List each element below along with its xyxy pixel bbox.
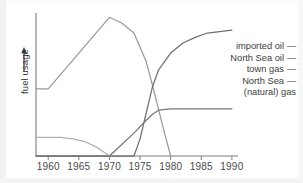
legend-item-north-sea-oil: North Sea oil— bbox=[196, 53, 296, 65]
legend-dash-icon: — bbox=[287, 64, 296, 76]
x-axis-tick-label: 1990 bbox=[220, 161, 243, 172]
legend-dash-icon: — bbox=[287, 76, 296, 88]
x-axis-tick-label: 1970 bbox=[98, 161, 121, 172]
legend-label-line2: (natural) gas bbox=[196, 87, 296, 99]
series-line-imported-oil bbox=[36, 17, 171, 156]
legend-item-north-sea-natural-gas: North Sea— (natural) gas bbox=[196, 76, 296, 99]
legend-label: town gas bbox=[247, 64, 284, 74]
chart-legend: imported oil— North Sea oil— town gas— N… bbox=[196, 41, 296, 99]
x-axis-tick-label: 1960 bbox=[37, 161, 60, 172]
legend-item-town-gas: town gas— bbox=[196, 64, 296, 76]
x-axis-tick-label: 1965 bbox=[67, 161, 90, 172]
legend-dash-icon: — bbox=[287, 41, 296, 53]
x-axis-tick-label: 1985 bbox=[190, 161, 213, 172]
x-axis-tick-label: 1975 bbox=[129, 161, 152, 172]
legend-dash-icon: — bbox=[287, 53, 296, 65]
figure-page: fuel usage 1960196519701975198019851990 … bbox=[0, 0, 303, 183]
line-chart-figure: fuel usage 1960196519701975198019851990 … bbox=[0, 0, 303, 183]
x-axis-tick-labels: 1960196519701975198019851990 bbox=[0, 161, 303, 177]
x-axis-tick-label: 1980 bbox=[159, 161, 182, 172]
y-axis-label: fuel usage bbox=[19, 32, 30, 112]
legend-label: imported oil bbox=[236, 41, 284, 51]
series-line-north-sea-natural-gas bbox=[36, 109, 232, 156]
legend-label: North Sea bbox=[242, 76, 284, 86]
legend-label: North Sea oil bbox=[230, 53, 284, 63]
legend-item-imported-oil: imported oil— bbox=[196, 41, 296, 53]
series-line-town-gas bbox=[36, 137, 109, 156]
